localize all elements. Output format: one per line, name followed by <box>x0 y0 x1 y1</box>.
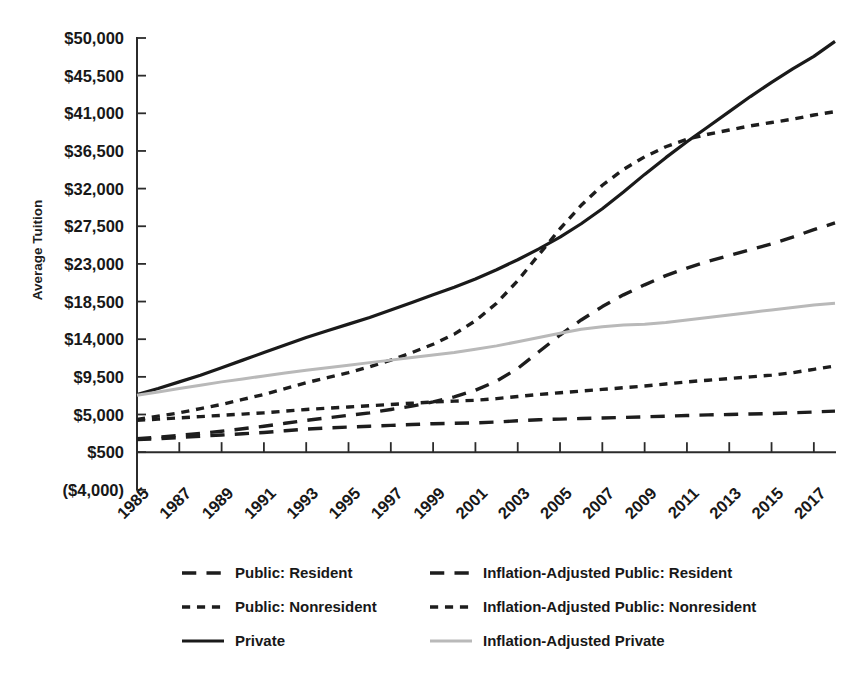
legend-label: Inflation-Adjusted Public: Resident <box>483 564 732 581</box>
legend-label: Private <box>235 632 285 649</box>
x-tick-label: 2003 <box>494 484 533 523</box>
y-axis-title: Average Tuition <box>30 200 45 301</box>
x-tick-label: 1991 <box>240 484 279 523</box>
x-tick-label: 1993 <box>283 484 322 523</box>
x-tick-label: 2007 <box>579 484 618 523</box>
x-tick-label: 2001 <box>452 484 491 523</box>
y-tick-label: $41,000 <box>64 104 124 122</box>
y-tick-label: $9,500 <box>74 368 124 386</box>
y-tick-label: ($4,000) <box>63 481 124 499</box>
y-tick-label: $5,000 <box>74 406 124 424</box>
chart-legend: Public: ResidentInflation-Adjusted Publi… <box>182 564 756 649</box>
x-tick-label: 1999 <box>410 484 449 523</box>
legend-label: Inflation-Adjusted Private <box>483 632 665 649</box>
y-tick-label: $45,500 <box>64 67 124 85</box>
x-tick-label: 2015 <box>748 484 787 523</box>
series-line-inflation-adjusted-public-resident <box>137 366 835 420</box>
legend-label: Inflation-Adjusted Public: Nonresident <box>483 598 756 615</box>
legend-item: Private <box>182 632 285 649</box>
tuition-line-chart: Average Tuition $50,000$45,500$41,000$36… <box>0 0 856 688</box>
y-axis-title-text: Average Tuition <box>30 200 45 301</box>
x-axis-tick-marks <box>137 442 814 452</box>
x-tick-label: 2013 <box>706 484 745 523</box>
legend-item: Inflation-Adjusted Public: Resident <box>430 564 732 581</box>
x-tick-label: 2009 <box>621 484 660 523</box>
legend-item: Public: Resident <box>182 564 353 581</box>
y-tick-label: $50,000 <box>64 29 124 47</box>
x-tick-label: 1997 <box>367 484 406 523</box>
y-tick-label: $14,000 <box>64 330 124 348</box>
y-tick-label: $18,500 <box>64 293 124 311</box>
x-axis-tick-labels: 1985198719891991199319951997199920012003… <box>113 484 829 523</box>
series-line-private <box>137 41 835 394</box>
x-tick-label: 1987 <box>156 484 195 523</box>
series-line-inflation-adjusted-public-nonresident <box>137 112 835 420</box>
data-series-layer <box>137 41 835 439</box>
legend-label: Public: Nonresident <box>235 598 377 615</box>
y-tick-label: $32,000 <box>64 180 124 198</box>
y-tick-label: $500 <box>87 443 124 461</box>
x-tick-label: 1989 <box>198 484 237 523</box>
series-line-inflation-adjusted-private <box>137 303 835 395</box>
legend-item: Public: Nonresident <box>182 598 377 615</box>
y-tick-label: $23,000 <box>64 255 124 273</box>
x-tick-label: 1995 <box>325 484 364 523</box>
legend-label: Public: Resident <box>235 564 353 581</box>
y-tick-label: $27,500 <box>64 217 124 235</box>
x-tick-label: 2011 <box>664 484 702 522</box>
series-line-public-nonresident <box>137 223 835 439</box>
x-tick-label: 2005 <box>536 484 575 523</box>
legend-item: Inflation-Adjusted Public: Nonresident <box>430 598 756 615</box>
legend-item: Inflation-Adjusted Private <box>430 632 665 649</box>
x-tick-label: 2017 <box>790 484 829 523</box>
y-axis-tick-labels: $50,000$45,500$41,000$36,500$32,000$27,5… <box>63 29 124 499</box>
y-tick-label: $36,500 <box>64 142 124 160</box>
y-axis-tick-marks <box>137 38 146 490</box>
